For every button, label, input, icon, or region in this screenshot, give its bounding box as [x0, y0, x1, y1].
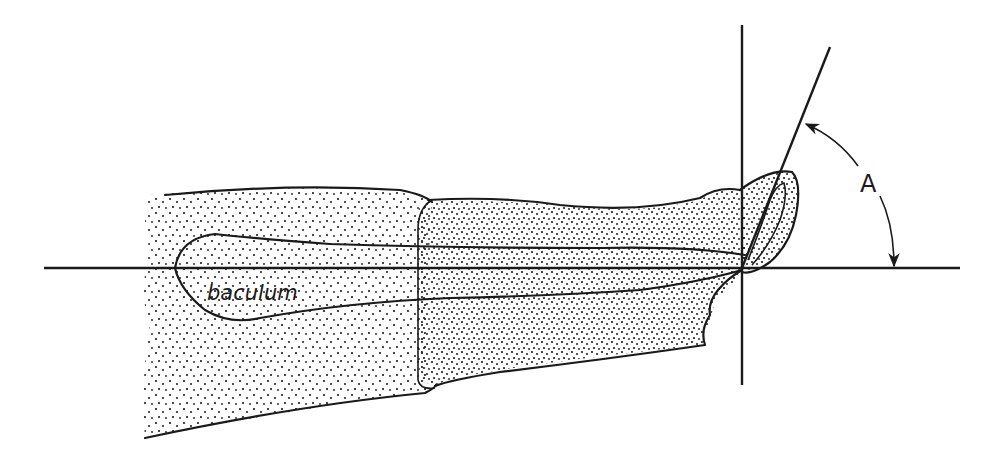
diagram-figure: baculum A — [0, 0, 994, 460]
baculum-label: baculum — [207, 281, 298, 305]
glans-tip — [740, 171, 798, 272]
angle-arc-lower — [880, 196, 894, 266]
glans — [418, 189, 746, 388]
diagram-canvas: baculum A — [0, 0, 994, 460]
angle-arc-upper — [806, 124, 858, 166]
angle-label: A — [860, 170, 877, 198]
